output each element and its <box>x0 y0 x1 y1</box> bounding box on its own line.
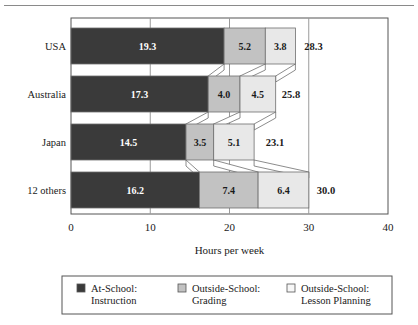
legend-label-grading-line2: Grading <box>192 295 227 306</box>
xtick-label-10: 10 <box>145 221 157 233</box>
value-12-others-instruction: 16.2 <box>126 185 144 196</box>
legend-label-instruction-line1: At-School: <box>91 283 137 294</box>
bar-row-usa: 19.3 5.2 3.8 28.3 USA <box>45 28 323 64</box>
bar-row-12-others: 16.2 7.4 6.4 30.0 12 others <box>27 172 335 208</box>
value-australia-grading: 4.0 <box>218 89 231 100</box>
category-label-12-others: 12 others <box>27 185 66 196</box>
legend-label-instruction-line2: Instruction <box>91 295 137 306</box>
legend-label-planning-line1: Outside-School: <box>301 283 369 294</box>
value-usa-planning: 3.8 <box>274 41 287 52</box>
value-usa-instruction: 19.3 <box>139 41 157 52</box>
legend-label-planning-line2: Lesson Planning <box>301 295 371 306</box>
value-australia-planning: 4.5 <box>252 89 265 100</box>
chart-figure: 19.3 5.2 3.8 28.3 USA 17.3 4.0 4.5 25.8 … <box>0 0 418 325</box>
xtick-label-40: 40 <box>383 221 395 233</box>
x-axis: 0 10 20 30 40 Hours per week <box>68 221 394 256</box>
legend-swatch-planning <box>287 284 295 292</box>
category-label-usa: USA <box>45 41 66 52</box>
legend-label-grading-line1: Outside-School: <box>192 283 260 294</box>
legend-swatch-instruction <box>77 284 85 292</box>
total-12-others: 30.0 <box>317 185 335 196</box>
xtick-label-30: 30 <box>303 221 315 233</box>
stacked-bar-chart: 19.3 5.2 3.8 28.3 USA 17.3 4.0 4.5 25.8 … <box>0 0 418 325</box>
total-australia: 25.8 <box>282 89 300 100</box>
x-axis-title: Hours per week <box>195 244 265 256</box>
value-12-others-grading: 7.4 <box>223 185 236 196</box>
xtick-label-0: 0 <box>68 221 74 233</box>
category-label-australia: Australia <box>28 89 67 100</box>
bar-row-australia: 17.3 4.0 4.5 25.8 Australia <box>28 76 301 112</box>
total-japan: 23.1 <box>266 137 284 148</box>
legend-swatch-grading <box>178 284 186 292</box>
bar-row-japan: 14.5 3.5 5.1 23.1 Japan <box>42 124 284 160</box>
xtick-label-20: 20 <box>224 221 236 233</box>
value-12-others-planning: 6.4 <box>277 185 290 196</box>
total-usa: 28.3 <box>304 41 322 52</box>
value-australia-instruction: 17.3 <box>131 89 149 100</box>
value-japan-instruction: 14.5 <box>120 137 138 148</box>
value-usa-grading: 5.2 <box>238 41 251 52</box>
chart-legend: At-School: Instruction Outside-School: G… <box>62 276 392 314</box>
category-label-japan: Japan <box>42 137 67 148</box>
value-japan-planning: 5.1 <box>228 137 241 148</box>
value-japan-grading: 3.5 <box>194 137 207 148</box>
